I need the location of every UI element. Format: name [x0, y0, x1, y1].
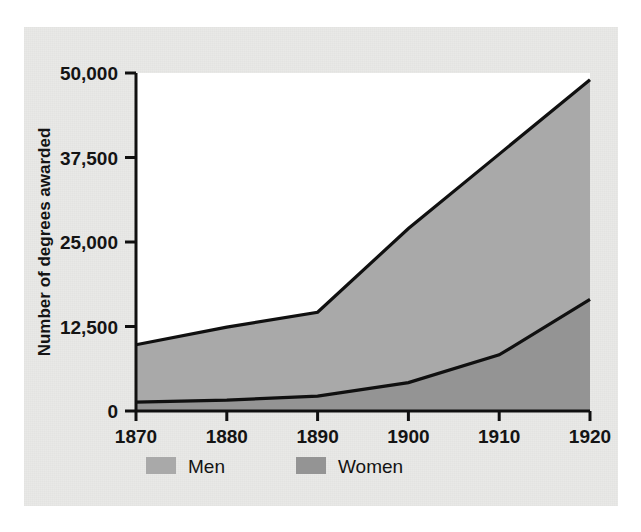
x-axis-tick-label: 1880 [206, 426, 248, 447]
y-axis-tick-label: 25,000 [60, 232, 118, 253]
legend-label: Men [188, 456, 225, 477]
x-axis-tick-label: 1890 [296, 426, 338, 447]
x-axis-ticks: 187018801890190019101920 [115, 411, 611, 447]
legend-label: Women [338, 456, 403, 477]
x-axis-tick-label: 1910 [478, 426, 520, 447]
y-axis-tick-label: 37,500 [60, 148, 118, 169]
y-axis-tick-label: 12,500 [60, 317, 118, 338]
y-axis-tick-label: 0 [107, 401, 118, 422]
x-axis-tick-label: 1920 [569, 426, 611, 447]
y-axis-tick-label: 50,000 [60, 63, 118, 84]
legend-swatch [146, 457, 176, 474]
chart-figure: 012,50025,00037,50050,000 18701880189019… [0, 0, 641, 532]
y-axis-ticks: 012,50025,00037,50050,000 [60, 63, 136, 422]
area-chart: 012,50025,00037,50050,000 18701880189019… [0, 0, 641, 532]
legend-swatch [296, 457, 326, 474]
chart-legend: MenWomen [146, 456, 403, 477]
x-axis-tick-label: 1870 [115, 426, 157, 447]
y-axis-title: Number of degrees awarded [35, 128, 54, 357]
x-axis-tick-label: 1900 [387, 426, 429, 447]
